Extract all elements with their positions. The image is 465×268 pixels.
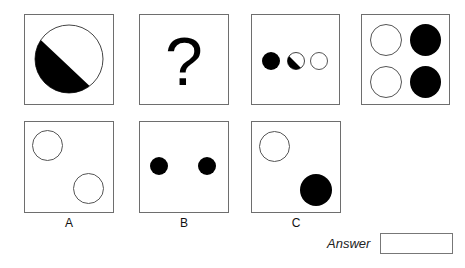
- question-mark-icon: ?: [140, 21, 228, 101]
- answer-input[interactable]: [380, 233, 453, 254]
- black-circle-icon: [300, 174, 332, 206]
- white-circle-icon: [32, 130, 63, 161]
- half-black-circle-icon: [24, 14, 114, 105]
- option-a-label: A: [54, 216, 84, 230]
- half-black-circle-icon: [286, 51, 306, 71]
- black-circle-icon: [410, 24, 441, 56]
- option-a-box[interactable]: [24, 121, 114, 213]
- option-b-box[interactable]: [139, 121, 229, 213]
- white-circle-icon: [259, 131, 290, 162]
- option-b-label: B: [169, 216, 199, 230]
- white-circle-icon: [370, 66, 402, 98]
- white-circle-icon: [370, 24, 402, 56]
- option-c-label: C: [281, 216, 311, 230]
- black-circle-icon: [262, 52, 280, 70]
- black-circle-icon: [198, 157, 216, 175]
- black-circle-icon: [410, 66, 441, 98]
- white-circle-icon: [73, 173, 104, 204]
- answer-label: Answer: [327, 236, 370, 251]
- black-circle-icon: [150, 157, 168, 175]
- option-c-box[interactable]: [251, 121, 341, 213]
- sequence-box-1: [24, 14, 114, 105]
- sequence-box-3: [251, 14, 340, 105]
- white-circle-icon: [310, 52, 328, 70]
- sequence-box-4: [361, 14, 450, 105]
- sequence-box-2: ?: [139, 14, 229, 105]
